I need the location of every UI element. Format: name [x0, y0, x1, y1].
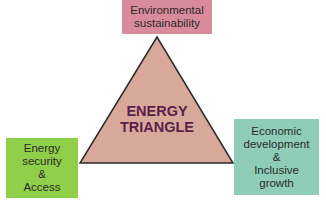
triangle-title: ENERGY TRIANGLE	[107, 103, 207, 135]
node-label-line: &	[273, 151, 281, 164]
node-economic-development-inclusive-growth: Economic development & Inclusive growth	[234, 119, 319, 195]
node-label-line: Environmental	[130, 4, 204, 17]
node-label-line: development	[244, 138, 310, 151]
node-label-line: Economic	[251, 125, 302, 138]
node-label-line: sustainability	[134, 17, 200, 30]
node-energy-security-access: Energy security & Access	[6, 138, 78, 198]
triangle-title-line: TRIANGLE	[107, 119, 207, 135]
node-label-line: Energy	[24, 142, 60, 155]
node-label-line: &	[38, 168, 46, 181]
node-label-line: Access	[23, 181, 60, 194]
node-label-line: Inclusive	[254, 164, 299, 177]
triangle-title-line: ENERGY	[107, 103, 207, 119]
node-label-line: growth	[259, 177, 294, 190]
node-environmental-sustainability: Environmental sustainability	[122, 0, 212, 34]
node-label-line: security	[22, 155, 62, 168]
